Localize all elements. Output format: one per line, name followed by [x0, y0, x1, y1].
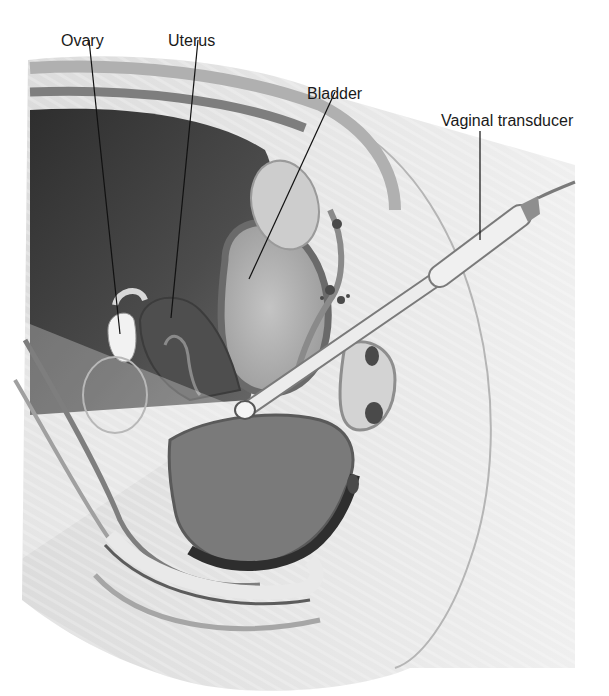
label-vaginal-transducer: Vaginal transducer: [441, 113, 573, 129]
transvaginal-ultrasound-illustration: [0, 0, 609, 696]
label-ovary: Ovary: [61, 33, 104, 49]
label-bladder: Bladder: [307, 86, 362, 102]
label-uterus: Uterus: [168, 33, 215, 49]
